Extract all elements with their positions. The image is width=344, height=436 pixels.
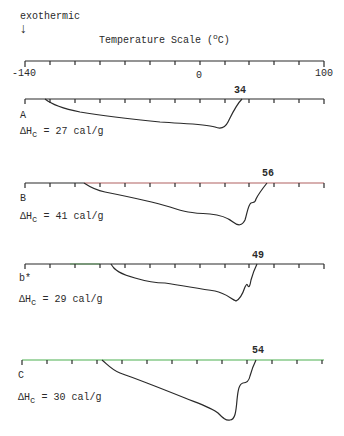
curve-B-label: B bbox=[20, 193, 26, 204]
curve-C-enthalpy: ΔHc = 30 cal/g bbox=[18, 392, 101, 406]
scale-ticks bbox=[25, 61, 324, 67]
curve-C bbox=[22, 360, 324, 420]
curve-A bbox=[25, 99, 324, 128]
curve-A-enthalpy: ΔHc = 27 cal/g bbox=[20, 126, 103, 140]
curve-b-star-enthalpy: ΔHc = 29 cal/g bbox=[19, 294, 102, 308]
curve-B-end-temp: 56 bbox=[262, 168, 274, 179]
curve-A-end-temp: 34 bbox=[234, 85, 246, 96]
curve-B-enthalpy: ΔHc = 41 cal/g bbox=[20, 211, 103, 225]
curve-C-label: C bbox=[18, 370, 24, 381]
curve-b-star-label: b* bbox=[19, 273, 31, 284]
curve-C-end-temp: 54 bbox=[252, 345, 264, 356]
curve-b-star-end-temp: 49 bbox=[252, 250, 264, 261]
curve-A-label: A bbox=[20, 110, 26, 121]
